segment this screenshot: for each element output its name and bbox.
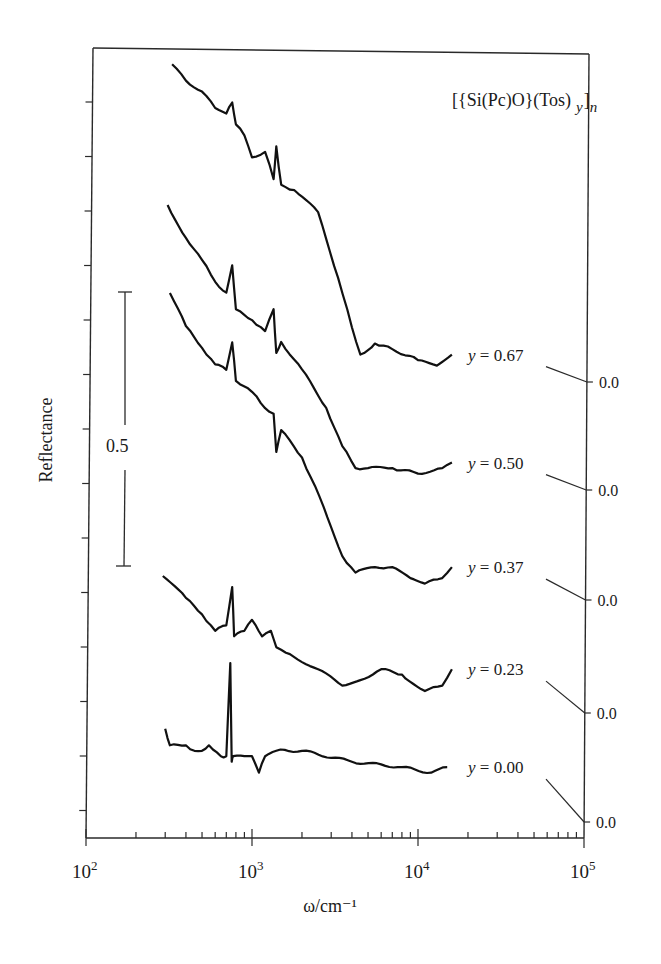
series-label: y = 0.50 [466, 454, 523, 473]
spectrum-curve [163, 576, 452, 691]
chart-title: [{Si(Pc)O}(Tos)y]n [452, 90, 597, 115]
spectrum-curve [172, 64, 452, 365]
right-axis [584, 54, 589, 838]
label-leader-line [546, 579, 586, 600]
spectrum-curve [165, 663, 447, 773]
top-axis [93, 48, 589, 54]
reflectance-chart: 102103104105 [{Si(Pc)O}(Tos)y]n Reflecta… [0, 0, 661, 964]
series-labels: y = 0.670.0y = 0.500.0y = 0.370.0y = 0.2… [466, 346, 619, 831]
left-axis-ticks [79, 102, 92, 811]
spectrum-curve [170, 293, 452, 583]
x-tick-label: 102 [72, 858, 98, 882]
series-label: y = 0.00 [466, 758, 523, 777]
label-leader-line [546, 367, 587, 382]
baseline-zero-label: 0.0 [599, 374, 619, 391]
label-leader-line [546, 681, 585, 713]
x-tick-label: 104 [404, 858, 430, 882]
baseline-zero-label: 0.0 [597, 705, 617, 722]
scale-bar [116, 292, 132, 566]
x-tick-label: 103 [238, 858, 264, 882]
x-axis-tick-labels: 102103104105 [72, 858, 596, 882]
x-axis-label: ω/cm⁻¹ [303, 896, 357, 916]
series-label: y = 0.37 [466, 558, 524, 577]
scale-bar-label: 0.5 [106, 436, 129, 456]
baseline-zero-label: 0.0 [598, 592, 618, 609]
y-axis-label: Reflectance [36, 398, 56, 483]
left-axis [86, 48, 93, 838]
baseline-zero-label: 0.0 [598, 482, 618, 499]
label-leader-line [546, 475, 586, 490]
series-label: y = 0.23 [466, 660, 523, 679]
spectrum-curve [168, 205, 452, 474]
plot-frame [86, 48, 589, 838]
x-tick-label: 105 [570, 858, 596, 882]
series-label: y = 0.67 [466, 346, 524, 365]
label-leader-line [546, 779, 584, 822]
curves [163, 64, 452, 773]
baseline-zero-label: 0.0 [596, 814, 616, 831]
